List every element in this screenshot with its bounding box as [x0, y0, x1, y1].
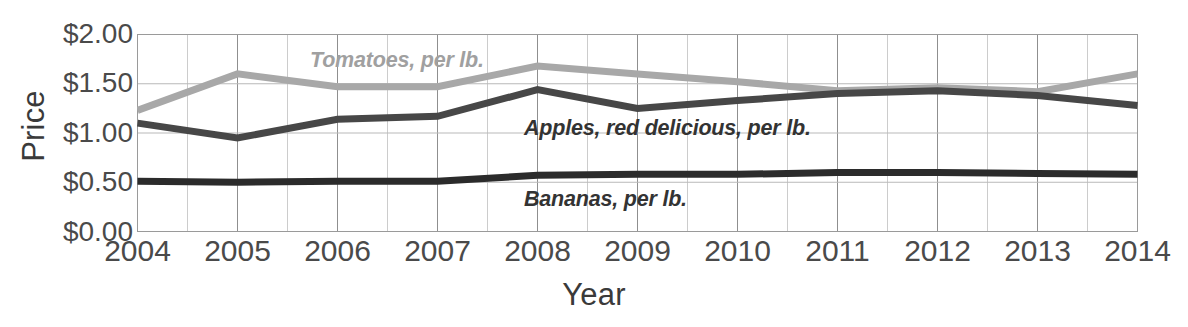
x-axis-tick-labels: 2004200520062007200820092010201120122013… — [0, 236, 1188, 280]
y-tick-label: $1.00 — [15, 119, 133, 147]
x-tick-label: 2014 — [1078, 236, 1188, 266]
series-label-tomatoes: Tomatoes, per lb. — [310, 48, 484, 73]
series-label-bananas: Bananas, per lb. — [524, 187, 687, 212]
series-label-apples: Apples, red delicious, per lb. — [524, 116, 811, 141]
y-tick-label: $2.00 — [15, 20, 133, 48]
price-line-chart: Price $2.00 $1.50 $1.00 $0.50 $0.00 2004… — [0, 0, 1188, 327]
y-tick-label: $1.50 — [15, 69, 133, 97]
y-tick-label: $0.50 — [15, 168, 133, 196]
x-axis-title: Year — [0, 277, 1188, 313]
